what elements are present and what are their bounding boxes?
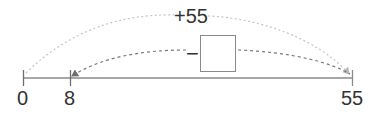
arc-plus-55 xyxy=(26,15,175,73)
top-arc-label: +55 xyxy=(174,6,208,26)
tick-label-55: 55 xyxy=(341,88,363,108)
tick-label-0: 0 xyxy=(17,88,28,108)
tick-label-8: 8 xyxy=(64,88,75,108)
arc-minus-right xyxy=(238,50,350,74)
answer-blank-box[interactable] xyxy=(200,35,236,72)
minus-operator: − xyxy=(186,43,199,65)
arc-minus-left xyxy=(72,50,186,76)
